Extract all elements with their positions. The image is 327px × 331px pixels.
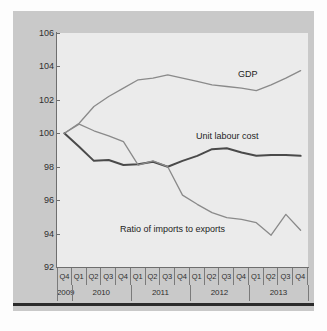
y-axis-tick-mark — [57, 133, 60, 134]
x-axis-quarter-cell: Q2 — [87, 268, 102, 285]
y-axis-tick-label: 104 — [32, 62, 54, 71]
x-axis-quarter-cell: Q1 — [72, 268, 87, 285]
x-axis-quarter-cell: Q3 — [101, 268, 116, 285]
y-axis-tick-label: 98 — [32, 163, 54, 172]
y-axis-tick-label: 106 — [32, 29, 54, 38]
y-axis-tick-mark — [57, 200, 60, 201]
y-axis-tick-mark — [57, 100, 60, 101]
ratio-of-imports-to-exports-series-label: Ratio of imports to exports — [120, 224, 225, 234]
x-axis-quarter-cell: Q4 — [57, 268, 72, 285]
x-axis-quarter-cell: Q3 — [219, 268, 234, 285]
x-axis-year-label: 2012 — [190, 285, 249, 301]
x-axis-quarter-cell: Q4 — [293, 268, 308, 285]
x-axis-quarter-cell: Q2 — [264, 268, 279, 285]
y-axis-labels: 10610410210098969492 — [27, 0, 54, 331]
x-axis-quarter-cell: Q1 — [131, 268, 146, 285]
unit-labour-cost-series-label: Unit labour cost — [196, 131, 259, 141]
x-axis-year-label: 2010 — [72, 285, 131, 301]
x-axis-quarter-cell: Q1 — [190, 268, 205, 285]
x-axis-year-separator — [57, 285, 58, 301]
x-axis-quarter-cell: Q1 — [249, 268, 264, 285]
x-axis-quarter-cell: Q3 — [278, 268, 293, 285]
y-axis-tick-label: 96 — [32, 196, 54, 205]
x-axis-year-labels: 20092010201120122013 — [28, 285, 309, 301]
x-axis-quarter-cell: Q3 — [160, 268, 175, 285]
y-axis-tick-mark — [57, 66, 60, 67]
y-axis-tick-mark — [57, 167, 60, 168]
x-axis-year-separator — [308, 285, 309, 301]
figure-root: 10610410210098969492 Q4Q1Q2Q3Q4Q1Q2Q3Q4Q… — [0, 0, 327, 331]
y-axis-tick-label: 102 — [32, 96, 54, 105]
x-axis-quarter-cell: Q2 — [205, 268, 220, 285]
x-axis-year-separator — [72, 285, 73, 301]
y-axis-line — [56, 32, 57, 268]
gdp-series-label: GDP — [238, 69, 258, 79]
x-axis-quarter-cell: Q4 — [116, 268, 131, 285]
panel-bottom-rule — [13, 303, 314, 306]
x-axis-year-label: 2013 — [249, 285, 308, 301]
y-axis-tick-label: 100 — [32, 129, 54, 138]
x-axis-quarter-labels: Q4Q1Q2Q3Q4Q1Q2Q3Q4Q1Q2Q3Q4Q1Q2Q3Q4 — [57, 268, 308, 285]
x-axis-quarter-cell: Q2 — [146, 268, 161, 285]
y-axis-tick-label: 92 — [32, 263, 54, 272]
x-axis-year-separator — [249, 285, 250, 301]
x-axis-year-separator — [190, 285, 191, 301]
x-axis-year-separator — [131, 285, 132, 301]
y-axis-tick-label: 94 — [32, 230, 54, 239]
x-axis-quarter-cell: Q4 — [175, 268, 190, 285]
y-axis-tick-mark — [57, 33, 60, 34]
x-axis-year-label: 2009 — [57, 285, 72, 301]
x-axis-year-label: 2011 — [131, 285, 190, 301]
y-axis-tick-mark — [57, 234, 60, 235]
x-axis-quarter-cell: Q4 — [234, 268, 249, 285]
